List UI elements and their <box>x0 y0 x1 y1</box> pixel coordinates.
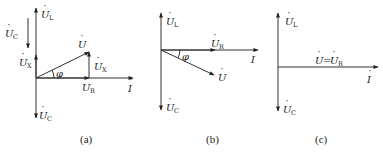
svg-text:X: X <box>102 66 107 74</box>
label-ul: · U L <box>285 8 298 29</box>
label-ul: · U L <box>166 8 179 29</box>
phi-arc <box>52 70 54 78</box>
svg-text:L: L <box>293 21 298 29</box>
svg-text:X: X <box>27 62 32 70</box>
label-i: · I <box>250 46 256 65</box>
svg-text:U: U <box>218 72 227 83</box>
label-ul: · U L <box>41 1 54 22</box>
label-uc-top: · U C <box>5 20 18 41</box>
svg-text:R: R <box>90 87 96 95</box>
label-phi: φ <box>182 51 189 62</box>
svg-text:C: C <box>47 115 52 123</box>
diagram-b: · U L · U R φ · I · U · U C (b) <box>161 8 258 146</box>
svg-text:C: C <box>291 109 296 117</box>
label-ur: · U R <box>211 30 225 51</box>
label-ux-left: · U X <box>19 49 32 70</box>
label-ux-right: · U X <box>94 53 107 74</box>
label-uc: · U C <box>166 94 179 115</box>
label-phi: φ <box>56 68 63 79</box>
svg-text:C: C <box>174 107 179 115</box>
label-uc: · U C <box>283 96 296 117</box>
caption-a: (a) <box>80 133 93 146</box>
phi-arc <box>178 50 180 58</box>
svg-text:L: L <box>174 21 179 29</box>
diagram-c: · U L · U = · U R · I · U C (c) <box>278 8 378 146</box>
caption-b: (b) <box>206 133 219 146</box>
svg-text:C: C <box>13 33 18 41</box>
caption-c: (c) <box>315 133 328 146</box>
diagram-a: · U L · U C · U X · U · U X φ · U R <box>5 1 133 146</box>
label-i: · I <box>366 66 372 85</box>
phasor-diagrams: · U L · U C · U X · U · U X φ · U R <box>0 0 383 158</box>
label-u: · U <box>78 31 87 50</box>
label-u-eq-ur: · U = · U R <box>315 47 344 68</box>
label-u: · U <box>218 64 227 83</box>
svg-text:U: U <box>78 39 87 50</box>
label-uc-bottom: · U C <box>39 102 52 123</box>
svg-text:L: L <box>49 14 54 22</box>
